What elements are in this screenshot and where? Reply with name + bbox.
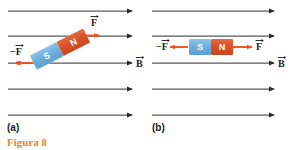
force-arrow-dot-icon (16, 61, 20, 65)
force-label-negative-F: −F (10, 46, 22, 57)
figure-caption: Figura 8 (7, 136, 48, 148)
panel-b-magnet: S N (189, 39, 233, 55)
panel-label-b: (b) (152, 122, 165, 133)
figure-8-root: B F −F S N (a) (0, 0, 290, 150)
magnet-south-label: S (197, 42, 203, 52)
force-label-F: F (91, 17, 97, 28)
magnet-north-label: N (219, 42, 226, 52)
field-label-B: B (278, 58, 285, 69)
force-label-F: F (256, 41, 262, 52)
field-label-B: B (136, 58, 143, 69)
force-label-negative-F: −F (156, 41, 168, 52)
panel-label-a: (a) (7, 122, 19, 133)
figure-8-svg: B F −F S N (a) (0, 0, 290, 150)
figure-background (0, 0, 290, 150)
